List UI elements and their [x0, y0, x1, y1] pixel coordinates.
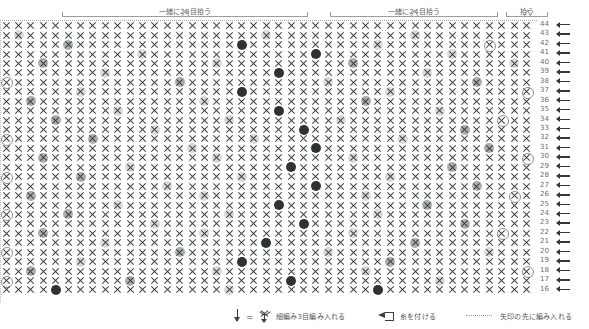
single-crochet-icon — [64, 172, 73, 181]
stitch-cell — [74, 276, 86, 285]
row-direction-arrow-icon — [556, 247, 570, 256]
stitch-cell — [235, 40, 247, 49]
stitch-cell — [62, 200, 74, 209]
single-crochet-icon — [138, 116, 147, 125]
stitch-cell — [322, 229, 334, 238]
single-crochet-icon — [497, 21, 506, 30]
single-crochet-icon — [14, 78, 23, 87]
stitch-cell — [0, 125, 12, 134]
single-crochet-icon — [51, 125, 60, 134]
single-crochet-icon — [138, 163, 147, 172]
stitch-cell — [260, 163, 272, 172]
stitch-cell — [397, 163, 409, 172]
single-crochet-icon — [299, 97, 308, 106]
stitch-cell — [62, 248, 74, 257]
single-crochet-icon — [349, 238, 358, 247]
single-crochet-icon — [349, 87, 358, 96]
single-crochet-icon — [349, 31, 358, 40]
stitch-cell — [25, 115, 37, 124]
stitch-cell — [248, 229, 260, 238]
single-crochet-icon — [311, 144, 320, 153]
single-crochet-icon — [522, 31, 531, 40]
single-crochet-icon — [250, 21, 259, 30]
stitch-row — [0, 200, 533, 209]
single-crochet-icon — [274, 125, 283, 134]
stitch-cell — [273, 68, 285, 77]
stitch-cell — [372, 153, 384, 162]
stitch-cell — [434, 97, 446, 106]
single-crochet-icon — [274, 248, 283, 257]
single-crochet-icon — [138, 59, 147, 68]
single-crochet-icon — [423, 59, 432, 68]
stitch-cell — [322, 266, 334, 275]
stitch-cell — [310, 257, 322, 266]
single-crochet-icon — [373, 68, 382, 77]
stitch-cell — [149, 49, 161, 58]
single-crochet-icon — [163, 125, 172, 134]
single-crochet-icon — [250, 68, 259, 77]
single-crochet-icon — [262, 87, 271, 96]
stitch-cell — [260, 134, 272, 143]
single-crochet-icon — [138, 257, 147, 266]
stitch-cell — [372, 163, 384, 172]
single-crochet-icon — [101, 40, 110, 49]
stitch-cell — [223, 78, 235, 87]
single-crochet-icon — [113, 59, 122, 68]
stitch-cell — [372, 219, 384, 228]
stitch-cell — [173, 49, 185, 58]
stitch-cell — [483, 87, 495, 96]
stitch-cell — [421, 40, 433, 49]
single-crochet-icon — [138, 248, 147, 257]
stitch-row — [0, 210, 533, 219]
single-crochet-icon — [51, 285, 60, 294]
stitch-cell — [508, 115, 520, 124]
stitch-cell — [458, 134, 470, 143]
row-number: 44 — [540, 20, 553, 29]
single-crochet-icon — [51, 276, 60, 285]
stitch-cell — [508, 30, 520, 39]
single-crochet-icon — [188, 153, 197, 162]
stitch-cell — [99, 276, 111, 285]
stitch-cell — [50, 285, 62, 294]
single-crochet-icon — [485, 238, 494, 247]
stitch-cell — [87, 144, 99, 153]
stitch-cell — [223, 163, 235, 172]
stitch-cell — [458, 181, 470, 190]
stitch-cell — [186, 172, 198, 181]
single-crochet-icon — [64, 144, 73, 153]
single-crochet-icon — [26, 229, 35, 238]
row-direction-arrow-icon — [556, 200, 570, 209]
single-crochet-icon — [39, 210, 48, 219]
single-crochet-icon — [262, 248, 271, 257]
single-crochet-icon — [150, 68, 159, 77]
stitch-cell — [335, 125, 347, 134]
stitch-cell — [496, 266, 508, 275]
single-crochet-icon — [361, 267, 370, 276]
stitch-cell — [0, 210, 12, 219]
single-crochet-icon — [398, 153, 407, 162]
stitch-cell — [359, 229, 371, 238]
single-crochet-icon — [349, 182, 358, 191]
stitch-cell — [520, 144, 532, 153]
stitch-cell — [434, 266, 446, 275]
stitch-cell — [99, 191, 111, 200]
single-crochet-icon — [435, 229, 444, 238]
single-crochet-icon — [250, 276, 259, 285]
single-crochet-icon — [361, 87, 370, 96]
stitch-cell — [496, 78, 508, 87]
single-crochet-icon — [460, 31, 469, 40]
single-crochet-icon — [14, 116, 23, 125]
single-crochet-icon — [324, 210, 333, 219]
single-crochet-icon — [51, 106, 60, 115]
stitch-cell — [211, 210, 223, 219]
single-crochet-icon — [39, 31, 48, 40]
stitch-cell — [136, 78, 148, 87]
stitch-cell — [421, 172, 433, 181]
stitch-cell — [322, 40, 334, 49]
single-crochet-icon — [299, 68, 308, 77]
single-crochet-icon — [126, 172, 135, 181]
single-crochet-icon — [398, 50, 407, 59]
single-crochet-icon — [349, 59, 358, 68]
single-crochet-icon — [460, 257, 469, 266]
stitch-cell — [112, 200, 124, 209]
